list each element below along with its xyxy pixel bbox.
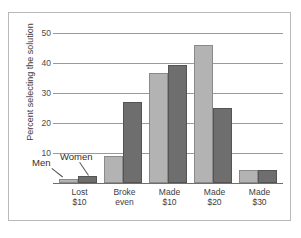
made-30-women-bar[interactable]: [258, 170, 277, 183]
x-label-made-30: Made $30: [237, 187, 282, 207]
x-axis-line: [53, 183, 283, 184]
lost-10-women-bar[interactable]: [78, 176, 97, 183]
y-tick-label-20: 20: [35, 119, 51, 128]
y-tick-label-40: 40: [35, 59, 51, 68]
bar-group-lost-10: [57, 33, 102, 183]
x-label-lost-10-line1: Lost: [71, 187, 87, 197]
x-label-made-20: Made $20: [192, 187, 237, 207]
x-label-lost-10: Lost $10: [57, 187, 102, 207]
x-label-broke-even-line1: Broke: [113, 187, 135, 197]
bar-group-made-10: [147, 33, 192, 183]
x-label-made-30-line2: $30: [252, 197, 266, 207]
x-label-made-20-line2: $20: [207, 197, 221, 207]
made-20-men-bar[interactable]: [194, 45, 213, 183]
bar-group-made-30: [237, 33, 282, 183]
broke-even-men-bar[interactable]: [104, 156, 123, 183]
x-label-broke-even: Broke even: [102, 187, 147, 207]
lost-10-men-bar[interactable]: [59, 179, 78, 183]
made-20-women-bar[interactable]: [213, 108, 232, 183]
bar-group-broke-even: [102, 33, 147, 183]
x-axis-tick-labels: Lost $10 Broke even Made $10 Made $20 Ma…: [57, 187, 283, 215]
x-label-made-10-line1: Made: [159, 187, 180, 197]
y-axis-tick-labels: 50 40 30 20 10: [33, 33, 51, 183]
made-30-men-bar[interactable]: [239, 170, 258, 183]
made-10-men-bar[interactable]: [149, 73, 168, 183]
broke-even-women-bar[interactable]: [123, 102, 142, 183]
x-label-made-30-line1: Made: [249, 187, 270, 197]
y-tick-label-10: 10: [35, 149, 51, 158]
x-label-broke-even-line2: even: [115, 197, 133, 207]
x-label-lost-10-line2: $10: [72, 197, 86, 207]
x-label-made-10-line2: $10: [162, 197, 176, 207]
chart-figure: Percent selecting the solution 50 40 30 …: [0, 0, 301, 238]
plot-area: [57, 33, 283, 183]
x-label-made-20-line1: Made: [204, 187, 225, 197]
x-label-made-10: Made $10: [147, 187, 192, 207]
y-tick-label-30: 30: [35, 89, 51, 98]
made-10-women-bar[interactable]: [168, 65, 187, 183]
y-tick-label-50: 50: [35, 29, 51, 38]
bar-group-made-20: [192, 33, 237, 183]
